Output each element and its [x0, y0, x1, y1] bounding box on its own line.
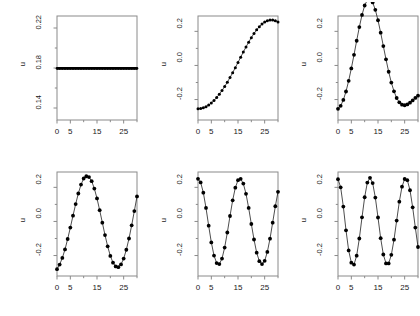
y-tick-label: 0.18	[34, 55, 43, 70]
data-point	[273, 204, 277, 208]
data-point	[249, 222, 253, 226]
y-axis-label: u	[159, 62, 168, 66]
data-point	[352, 53, 356, 57]
data-point	[225, 231, 229, 235]
data-line	[338, 2, 418, 109]
data-point	[231, 71, 234, 74]
data-point	[77, 67, 80, 70]
data-point	[60, 256, 64, 260]
data-point	[112, 67, 115, 70]
x-tick-label: 25	[256, 127, 274, 136]
data-point	[395, 219, 399, 223]
data-point	[253, 32, 256, 35]
data-point	[392, 238, 396, 242]
data-point	[220, 257, 224, 261]
data-point	[228, 214, 232, 218]
x-tick-label: 15	[229, 283, 247, 292]
data-point	[371, 2, 375, 4]
data-point	[244, 192, 248, 196]
data-point	[416, 94, 420, 98]
data-point	[397, 200, 401, 204]
data-point	[204, 206, 208, 210]
data-point	[371, 181, 375, 185]
data-point	[271, 19, 274, 22]
data-point	[363, 195, 367, 199]
data-point	[234, 66, 237, 69]
data-point	[119, 263, 123, 267]
data-point	[72, 67, 75, 70]
x-tick-label: 15	[88, 127, 106, 136]
y-tick-label: -0.2	[315, 243, 324, 256]
x-tick-label: 5	[202, 127, 220, 136]
data-point	[261, 23, 264, 26]
data-point	[63, 248, 67, 252]
data-point	[76, 192, 80, 196]
y-axis-label: u	[299, 62, 308, 66]
y-axis-label: u	[159, 218, 168, 222]
data-point	[215, 96, 218, 99]
data-point	[250, 36, 253, 39]
data-point	[66, 237, 70, 241]
data-point	[347, 249, 351, 253]
x-tick-label: 5	[61, 283, 79, 292]
y-tick-label: 0.0	[175, 52, 184, 62]
data-point	[212, 254, 216, 258]
data-point	[207, 104, 210, 107]
data-point	[395, 96, 399, 100]
y-tick-label: 0.0	[315, 52, 324, 62]
data-point	[245, 45, 248, 48]
data-point	[400, 185, 404, 189]
data-point	[96, 67, 99, 70]
data-point	[122, 67, 125, 70]
data-point	[209, 241, 213, 245]
data-point	[381, 253, 385, 257]
data-point	[355, 254, 359, 258]
data-point	[101, 67, 104, 70]
data-point	[133, 67, 136, 70]
data-point	[108, 254, 112, 258]
data-point	[58, 263, 62, 267]
plot-area-panel-5	[141, 158, 281, 316]
y-tick-label: 0.0	[175, 208, 184, 218]
y-tick-label: 0.2	[315, 174, 324, 184]
plot-panel-6: u-0.20.00.2051525	[281, 158, 420, 316]
data-point	[258, 25, 261, 28]
data-point	[373, 8, 377, 12]
plot-area-panel-6	[281, 158, 420, 316]
data-point	[104, 67, 107, 70]
data-point	[196, 177, 200, 181]
data-point	[336, 177, 340, 181]
data-point	[255, 28, 258, 31]
data-point	[260, 262, 264, 266]
data-point	[360, 13, 364, 17]
data-point	[247, 41, 250, 44]
data-point	[201, 191, 205, 195]
data-point	[357, 25, 361, 29]
y-axis-label: u	[299, 218, 308, 222]
data-point	[98, 67, 101, 70]
data-point	[213, 99, 216, 102]
y-tick-label: -0.2	[175, 87, 184, 100]
data-point	[87, 175, 91, 179]
data-point	[125, 67, 128, 70]
data-point	[120, 67, 123, 70]
y-tick-label: 0.2	[34, 174, 43, 184]
data-point	[88, 67, 91, 70]
data-point	[344, 228, 348, 232]
data-point	[360, 215, 364, 219]
data-point	[365, 181, 369, 185]
x-tick-label: 5	[342, 283, 360, 292]
data-point	[255, 251, 259, 255]
data-point	[111, 261, 115, 265]
data-point	[64, 67, 67, 70]
data-point	[127, 237, 131, 241]
data-point	[197, 107, 200, 110]
data-point	[376, 18, 380, 22]
y-axis-label: u	[18, 62, 27, 66]
data-point	[276, 190, 280, 194]
data-point	[106, 67, 109, 70]
plot-area-panel-1	[0, 2, 140, 160]
data-point	[271, 221, 275, 225]
data-point	[98, 208, 102, 212]
data-point	[221, 89, 224, 92]
